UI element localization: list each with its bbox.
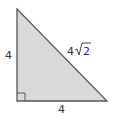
hypotenuse-radicand: 2 bbox=[83, 45, 90, 58]
triangle-diagram: 4 4 4 2 bbox=[0, 0, 116, 117]
bottom-leg-label: 4 bbox=[58, 103, 65, 116]
hypotenuse-coefficient: 4 bbox=[67, 45, 74, 58]
right-triangle bbox=[17, 9, 107, 101]
left-leg-label: 4 bbox=[5, 49, 12, 62]
